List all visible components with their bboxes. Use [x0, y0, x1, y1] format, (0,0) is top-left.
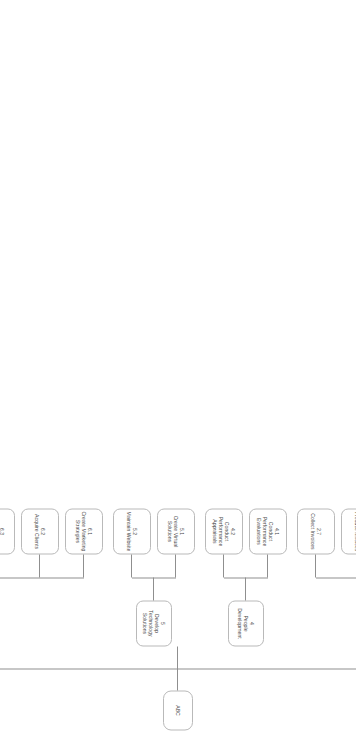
level2-node-6.3[interactable]: 6.3Lead Sales Events: [0, 508, 15, 554]
node-number: 6.3: [0, 527, 5, 534]
node-number: 4: [249, 622, 255, 625]
node-title: ABC: [175, 705, 181, 716]
node-title: Collect Invoices: [310, 513, 316, 549]
node-number: 6.1: [87, 527, 93, 534]
child-bus-4: [224, 577, 268, 578]
level2-node-2.7[interactable]: 2.7Collect Invoices: [297, 508, 335, 554]
root-node[interactable]: ABC: [163, 690, 193, 730]
child-stub-4.1: [267, 554, 268, 577]
level2-node-5.2[interactable]: 5.2Maintain Website: [113, 508, 151, 554]
node-title: Acquire Clients: [34, 513, 40, 548]
node-number: 4.1: [274, 527, 280, 534]
child-stub-2.7: [315, 554, 316, 577]
node-number: 5.1: [179, 527, 185, 534]
node-title: People Development: [237, 603, 249, 643]
level2-node-4.2[interactable]: 4.2Conduct Performance Appraisals: [205, 508, 243, 554]
child-bus-2: [316, 577, 356, 578]
child-bus-5: [132, 577, 176, 578]
node-title: Conduct Performance Evaluations: [256, 511, 275, 551]
branch-trunk-5: [153, 577, 154, 600]
node-number: 5: [160, 622, 166, 625]
child-stub-6.2: [39, 554, 40, 577]
level2-node-2.6[interactable]: 2.6Produce Invoices: [341, 508, 356, 554]
child-stub-6.1: [83, 554, 84, 577]
child-bus-6: [0, 577, 84, 578]
node-title: Develop Technology Solutions: [142, 603, 161, 643]
level1-spine: [0, 668, 356, 669]
node-title: Maintain Website: [126, 511, 132, 551]
node-number: 4.2: [230, 527, 236, 534]
child-stub-5.2: [131, 554, 132, 577]
level2-node-6.1[interactable]: 6.1Create Marketing Strategies: [65, 508, 103, 554]
org-chart-canvas: ABC1Planning the Business1.1Develop Livi…: [0, 0, 356, 749]
level2-node-5.1[interactable]: 5.1Create Virtual Solutions: [157, 508, 195, 554]
node-number: 2.7: [316, 527, 322, 534]
child-stub-4.2: [223, 554, 224, 577]
child-stub-5.1: [175, 554, 176, 577]
node-title: Create Marketing Strategies: [75, 511, 87, 551]
level1-node-5[interactable]: 5Develop Technology Solutions: [136, 600, 172, 646]
node-number: 6.2: [40, 527, 46, 534]
node-title: Create Virtual Solutions: [167, 511, 179, 551]
level2-node-4.1[interactable]: 4.1Conduct Performance Evaluations: [249, 508, 287, 554]
level1-node-4[interactable]: 4People Development: [228, 600, 264, 646]
node-title: Conduct Performance Appraisals: [212, 511, 231, 551]
branch-trunk-4: [245, 577, 246, 600]
level2-node-6.2[interactable]: 6.2Acquire Clients: [21, 508, 59, 554]
node-number: 5.2: [132, 527, 138, 534]
